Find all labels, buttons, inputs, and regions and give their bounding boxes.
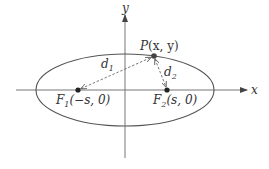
y-axis-label: y <box>121 1 129 15</box>
distance-d2-label: d2 <box>164 65 177 81</box>
point-p-label: P(x, y) <box>139 39 179 53</box>
focus-f1-label: F1(−s, 0) <box>55 93 111 109</box>
ellipse-diagram: x y P(x, y) d1 d2 F1(−s, 0) F2(s, 0) <box>0 0 269 169</box>
focus-f1-point <box>75 87 80 92</box>
distance-d1-label: d1 <box>101 57 114 73</box>
x-axis-label: x <box>251 83 258 97</box>
focus-f2-point <box>164 87 169 92</box>
distance-d1-line <box>81 58 151 89</box>
focus-f2-label: F2(s, 0) <box>152 93 198 109</box>
point-p <box>151 53 157 59</box>
